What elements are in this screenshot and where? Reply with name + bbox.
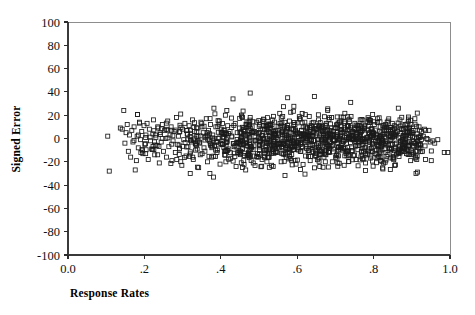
data-point-marker [416, 170, 420, 174]
x-tick-label: .8 [369, 262, 378, 276]
data-point-marker [187, 124, 191, 128]
data-point-marker [298, 167, 302, 171]
data-point-marker [231, 97, 235, 101]
y-tick-label: 40 [48, 85, 61, 99]
data-point-marker [156, 153, 160, 157]
data-point-marker [213, 112, 217, 116]
data-point-marker [157, 161, 161, 165]
data-point-marker [147, 127, 151, 131]
data-point-marker [312, 95, 316, 99]
data-point-marker [226, 124, 230, 128]
data-point-marker [146, 157, 150, 161]
data-point-marker [424, 157, 428, 161]
data-point-marker [135, 112, 139, 116]
data-point-marker [133, 168, 137, 172]
data-point-marker [179, 112, 183, 116]
y-tick-label: -60 [43, 202, 60, 216]
data-point-marker [224, 160, 228, 164]
data-point-marker [429, 149, 433, 153]
data-point-marker [307, 115, 311, 119]
y-tick-group [64, 22, 68, 255]
data-point-marker [218, 162, 222, 166]
data-point-marker [414, 171, 418, 175]
data-point-marker [165, 155, 169, 159]
data-point-marker [248, 91, 252, 95]
x-tick-label: 0.0 [60, 262, 76, 276]
x-tick-label-group: 0.0.2.4.6.81.0 [60, 262, 458, 276]
data-point-marker [303, 172, 307, 176]
data-point-marker [129, 155, 133, 159]
data-point-marker [292, 104, 296, 108]
data-point-marker [122, 109, 126, 113]
x-tick-label: .2 [140, 262, 149, 276]
data-point-marker [225, 109, 229, 113]
data-point-marker [271, 164, 275, 168]
data-point-marker [235, 131, 239, 135]
data-point-marker [160, 123, 164, 127]
data-point-marker [208, 123, 212, 127]
data-point-marker [182, 138, 186, 142]
y-tick-label: -80 [43, 225, 60, 239]
data-point-marker [335, 115, 339, 119]
scatter-plot-figure: 100806040200-20-40-60-80-100 0.0.2.4.6.8… [0, 0, 475, 315]
data-point-marker [125, 123, 129, 127]
data-point-marker [212, 106, 216, 110]
data-point-marker [229, 116, 233, 120]
data-point-marker [152, 118, 156, 122]
data-point-marker [364, 169, 368, 173]
data-point-marker [173, 150, 177, 154]
data-point-marker [409, 159, 413, 163]
data-point-marker [279, 116, 283, 120]
x-axis-title: Response Rates [70, 287, 149, 300]
data-point-marker [429, 159, 433, 163]
y-tick-label: 0 [54, 132, 60, 146]
data-point-marker [176, 134, 180, 138]
data-point-marker [371, 113, 375, 117]
data-point-marker [188, 171, 192, 175]
data-point-marker [205, 160, 209, 164]
data-point-marker [234, 164, 238, 168]
x-tick-label: 1.0 [442, 262, 458, 276]
data-point-marker [326, 165, 330, 169]
y-tick-label: 20 [48, 109, 61, 123]
data-point-marker [153, 153, 157, 157]
data-point-marker [330, 160, 334, 164]
data-point-marker [177, 152, 181, 156]
data-point-marker [286, 96, 290, 100]
y-tick-label: -20 [43, 155, 60, 169]
data-point-marker [342, 163, 346, 167]
y-tick-label: 80 [48, 39, 61, 53]
data-point-marker [388, 167, 392, 171]
data-point-marker [265, 160, 269, 164]
data-point-marker [123, 141, 127, 145]
data-point-marker [308, 159, 312, 163]
data-point-marker [413, 117, 417, 121]
data-point-marker [288, 119, 292, 123]
data-point-marker [170, 159, 174, 163]
data-point-marker [323, 160, 327, 164]
y-tick-label: 60 [48, 62, 61, 76]
data-point-marker [241, 109, 245, 113]
data-point-marker [281, 105, 285, 109]
data-point-marker [415, 111, 419, 115]
plot-canvas: 100806040200-20-40-60-80-100 0.0.2.4.6.8… [0, 0, 475, 315]
data-point-marker [167, 145, 171, 149]
y-tick-label: -100 [37, 249, 60, 263]
data-point-marker [162, 149, 166, 153]
data-point-marker [174, 116, 178, 120]
data-point-marker [169, 162, 173, 166]
data-point-marker [316, 113, 320, 117]
data-point-marker [126, 149, 130, 153]
data-point-marker [356, 164, 360, 168]
x-tick-group [68, 255, 450, 259]
data-point-marker [223, 113, 227, 117]
data-point-marker [136, 112, 140, 116]
y-tick-label: -40 [43, 179, 60, 193]
data-point-marker [301, 162, 305, 166]
data-point-marker [290, 163, 294, 167]
data-point-marker [283, 174, 287, 178]
x-tick-label: .4 [216, 262, 226, 276]
data-point-marker [106, 134, 110, 138]
x-tick-label: .6 [293, 262, 302, 276]
data-point-marker [182, 156, 186, 160]
